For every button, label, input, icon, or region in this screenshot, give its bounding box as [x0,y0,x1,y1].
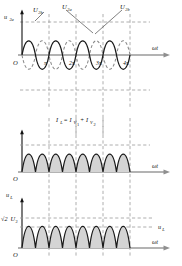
x-axis-label-current: ωt [152,162,158,169]
canvas-background [0,0,182,266]
y-axis-label-voltage: u [4,13,7,20]
y-axis-label-load-sub: L [9,195,13,200]
level-label-base: u [158,223,161,230]
origin-label-load: O [13,251,18,258]
x-axis-label-load: ωt [152,238,158,245]
figure-root: u 2a U 2b U 2a U 2b O π 2π 3π 4π ωt [0,0,182,266]
eq-plus: + [80,116,84,123]
peak-label-radical: √2 [1,215,8,222]
level-label-sub: L [161,227,165,232]
y-axis-label-load: u [6,191,9,198]
waveform-diagram: u 2a U 2b U 2a U 2b O π 2π 3π 4π ωt [0,0,182,266]
eq-term2-sub2: 2 [94,122,96,127]
eq-equals: = [63,116,67,123]
eq-term1-sub2: 1 [77,122,79,127]
origin-label-current: O [13,175,18,182]
xtick-3pi: 3π [95,60,103,66]
x-axis-label-voltage: ωt [152,44,158,51]
peak-label-sub: 2 [16,219,18,224]
origin-label-voltage: O [13,59,18,66]
